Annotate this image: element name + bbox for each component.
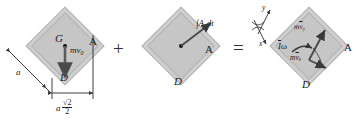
center-of-mass-dot-initial	[63, 44, 67, 48]
label-axis-y: y	[262, 4, 265, 12]
label-momentum-mv0: mv0	[70, 46, 84, 56]
label-side-length-a: a	[16, 68, 21, 77]
momentum-x-subscript: x	[299, 56, 301, 62]
label-momentum-x-component: mvx	[290, 54, 301, 63]
momentum-mv-text: mv	[70, 45, 81, 55]
label-corner-d-impulse: D	[174, 76, 182, 87]
label-axis-x: x	[259, 40, 262, 48]
impulse-dt-text: dt	[207, 18, 214, 28]
label-dimension-a: a	[56, 104, 61, 113]
operator-plus: +	[113, 39, 124, 58]
impulse-integral-text: ∫A	[196, 18, 204, 28]
momentum-mv-subscript: 0	[81, 50, 84, 56]
operator-equals: =	[233, 38, 244, 57]
label-dimension-root2-over-2: √2 2	[62, 99, 72, 117]
fraction-denominator: 2	[62, 108, 72, 116]
impulse-momentum-figure: G mv0 A D a a √2 2 + ∫Aydt A D = y x mvy…	[0, 0, 363, 124]
label-corner-a-initial: A	[89, 36, 97, 47]
center-of-mass-dot-impulse	[179, 44, 183, 48]
label-corner-a-impulse: A	[205, 44, 213, 55]
angular-omega-symbol: ω	[281, 41, 287, 51]
label-corner-a-final: A	[344, 42, 352, 53]
label-corner-d-final: D	[302, 79, 310, 90]
label-corner-d-initial: D	[60, 72, 68, 83]
label-angular-momentum-I-omega: Iω	[278, 42, 287, 51]
label-impulse-integral-Aydt: ∫Aydt	[196, 19, 214, 29]
label-momentum-y-component: mvy	[294, 23, 305, 32]
label-center-of-mass-G: G	[55, 33, 63, 44]
momentum-y-subscript: y	[303, 25, 305, 31]
